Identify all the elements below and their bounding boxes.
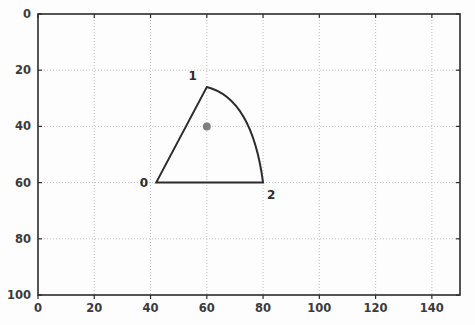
- y-tick-label: 40: [15, 119, 31, 133]
- x-tick-label: 40: [143, 301, 159, 315]
- x-tick-label: 140: [420, 301, 444, 315]
- x-tick-label: 100: [307, 301, 331, 315]
- y-tick-label: 0: [23, 7, 31, 21]
- plot-canvas: 020406080100120140 020406080100 012: [0, 0, 475, 325]
- vertex-label: 2: [267, 188, 275, 202]
- y-tick-label: 60: [15, 176, 31, 190]
- vertex-label: 0: [140, 176, 148, 190]
- x-tick-label: 20: [86, 301, 102, 315]
- data-markers: [203, 122, 211, 130]
- y-tick-label: 80: [15, 232, 31, 246]
- x-tick-label: 120: [364, 301, 388, 315]
- centroid-marker-dot: [203, 122, 211, 130]
- vertex-label: 1: [188, 69, 196, 83]
- chart-figure: 020406080100120140 020406080100 012: [0, 0, 475, 325]
- x-tick-label: 0: [34, 301, 42, 315]
- x-tick-label: 60: [199, 301, 215, 315]
- figure-background: [0, 0, 475, 325]
- y-tick-label: 100: [7, 288, 31, 302]
- y-tick-label: 20: [15, 63, 31, 77]
- x-tick-label: 80: [255, 301, 271, 315]
